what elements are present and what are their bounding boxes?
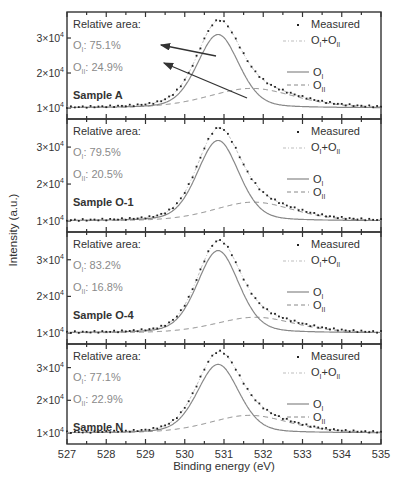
measured-point [227, 246, 229, 248]
measured-point [94, 219, 96, 221]
measured-point [223, 20, 225, 22]
measured-point [133, 218, 135, 220]
measured-point [78, 106, 80, 108]
measured-point [364, 430, 366, 432]
measured-point [251, 293, 253, 295]
measured-point [286, 92, 288, 94]
measured-point [200, 268, 202, 270]
measured-point [239, 47, 241, 49]
measured-point [302, 323, 304, 325]
measured-point [203, 261, 205, 263]
measured-point [160, 325, 162, 327]
measured-point [78, 332, 80, 334]
measured-point [74, 330, 76, 332]
measured-point [349, 431, 351, 433]
measured-point [258, 188, 260, 190]
measured-point [270, 412, 272, 414]
measured-point [376, 332, 378, 334]
measured-point [231, 141, 233, 143]
measured-point [247, 285, 249, 287]
measured-point [251, 66, 253, 68]
measured-point [168, 209, 170, 211]
measured-point [156, 100, 158, 102]
measured-point [196, 166, 198, 168]
measured-point [364, 219, 366, 221]
measured-point [251, 178, 253, 180]
measured-point [129, 431, 131, 433]
oi-percentage: OI: 75.1% [73, 39, 121, 53]
measured-point [235, 147, 237, 149]
measured-point [247, 388, 249, 390]
legend-sum-label: OI+OII [311, 34, 340, 48]
measured-point [200, 48, 202, 50]
xps-o1s-figure: 1×1042×1043×104Relative area:OI: 75.1%OI… [0, 0, 402, 486]
panel-sample-n: 1×1042×1043×104Relative area:OI: 77.1%OI… [36, 344, 381, 444]
measured-point [78, 220, 80, 222]
measured-point [172, 319, 174, 321]
measured-point [282, 418, 284, 420]
measured-point [223, 353, 225, 355]
measured-point [262, 408, 264, 410]
measured-point [360, 330, 362, 332]
measured-point [258, 403, 260, 405]
measured-point [125, 219, 127, 221]
measured-point [223, 129, 225, 131]
measured-point [117, 105, 119, 107]
measured-point [188, 296, 190, 298]
measured-point [231, 32, 233, 34]
legend-measured-marker [297, 24, 299, 26]
oii-percentage: OII: 22.9% [73, 393, 123, 407]
measured-point [176, 316, 178, 318]
measured-point [282, 317, 284, 319]
measured-point [341, 103, 343, 105]
measured-point [294, 206, 296, 208]
measured-point [333, 428, 335, 430]
measured-point [313, 99, 315, 101]
measured-point [309, 97, 311, 99]
measured-point [317, 427, 319, 429]
measured-point [274, 86, 276, 88]
measured-point [70, 332, 72, 334]
panel-sample-o-1: 1×1042×1043×104Relative area:OI: 79.5%OI… [36, 119, 381, 232]
measured-point [149, 215, 151, 217]
measured-point [368, 331, 370, 333]
oi-percentage: OI: 79.5% [73, 146, 121, 160]
measured-point [286, 418, 288, 420]
measured-point [325, 327, 327, 329]
measured-point [341, 329, 343, 331]
measured-point [247, 171, 249, 173]
legend-measured-label: Measured [311, 350, 360, 362]
relative-area-label: Relative area: [73, 238, 141, 250]
measured-point [298, 322, 300, 324]
measured-point [239, 156, 241, 158]
measured-point [298, 422, 300, 424]
measured-point [145, 329, 147, 331]
measured-point [321, 100, 323, 102]
legend-oii-label: OII [313, 186, 325, 200]
measured-point [278, 316, 280, 318]
measured-point [329, 329, 331, 331]
measured-point [109, 105, 111, 107]
measured-point [258, 302, 260, 304]
measured-point [302, 209, 304, 211]
measured-point [145, 218, 147, 220]
measured-point [200, 376, 202, 378]
sample-label: Sample O-1 [73, 196, 134, 208]
legend-sum-label: OI+OII [311, 141, 340, 155]
measured-point [262, 307, 264, 309]
measured-point [125, 430, 127, 432]
measured-point [215, 352, 217, 354]
measured-point [251, 394, 253, 396]
measured-point [306, 423, 308, 425]
measured-point [282, 89, 284, 91]
measured-point [325, 216, 327, 218]
measured-point [333, 103, 335, 105]
measured-point [105, 331, 107, 333]
measured-point [333, 216, 335, 218]
measured-point [156, 328, 158, 330]
measured-point [235, 38, 237, 40]
measured-point [82, 105, 84, 107]
x-tick-label: 531 [215, 448, 233, 460]
measured-point [219, 127, 221, 129]
panel-sample-a: 1×1042×1043×104Relative area:OI: 75.1%OI… [36, 12, 381, 119]
